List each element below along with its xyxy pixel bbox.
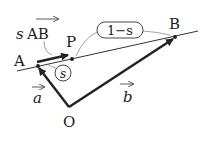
point-O-label: O — [63, 113, 75, 131]
ratio-1-s-leader-left — [76, 32, 97, 56]
vector-b-arrow — [69, 39, 173, 107]
vector-b-label: b — [123, 88, 133, 106]
vector-a-label: a — [33, 89, 42, 107]
point-P-label: P — [66, 33, 76, 51]
vector-diagram: s 1−s A P B O s AB a b — [0, 0, 213, 146]
point-A-label: A — [13, 52, 25, 70]
point-B-label: B — [169, 15, 180, 33]
ratio-1-s-leader-right — [143, 31, 170, 35]
ratio-s-label: s — [60, 67, 66, 81]
diagram-svg: s 1−s A P B O s AB a b — [0, 0, 213, 146]
point-B-dot — [173, 35, 177, 39]
point-A-dot — [36, 64, 40, 68]
sAB-coef: s — [16, 25, 24, 43]
sAB-leader — [44, 41, 52, 55]
sAB-label: AB — [26, 25, 49, 43]
point-P-dot — [70, 57, 74, 61]
ratio-1-s-label: 1−s — [107, 23, 133, 38]
